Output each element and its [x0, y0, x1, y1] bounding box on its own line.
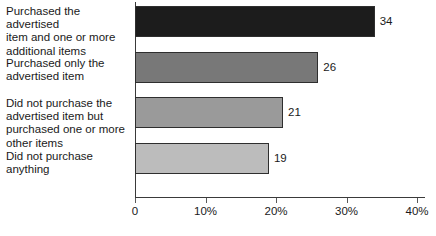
category-label-1-line-0: Purchased only the — [6, 57, 132, 70]
category-label-3-line-1: anything — [6, 163, 132, 176]
x-axis-tick-label-0: 0 — [132, 205, 138, 217]
category-label-1-line-1: advertised item — [6, 70, 132, 83]
category-label-3: Did not purchase anything — [6, 150, 132, 176]
bar-value-label-3: 19 — [274, 152, 287, 164]
bar-3 — [135, 143, 269, 174]
x-axis-tick-1 — [206, 198, 207, 203]
category-label-0-line-0: Purchased the advertised — [6, 5, 132, 31]
category-label-2-line-1: advertised item but — [6, 110, 132, 123]
category-label-2-line-3: other items — [6, 137, 132, 150]
category-label-0: Purchased the advertised item and one or… — [6, 5, 132, 58]
bar-value-label-1: 26 — [323, 61, 336, 73]
x-axis-tick-3 — [347, 198, 348, 203]
x-axis-tick-label-3: 30% — [335, 205, 358, 217]
category-label-1: Purchased only the advertised item — [6, 57, 132, 83]
category-label-2: Did not purchase the advertised item but… — [6, 97, 132, 150]
bar-0 — [135, 6, 375, 37]
bar-2 — [135, 97, 283, 128]
x-axis-tick-2 — [276, 198, 277, 203]
bar-chart: Purchased the advertised item and one or… — [0, 0, 436, 236]
category-label-0-line-2: additional items — [6, 45, 132, 58]
category-label-2-line-0: Did not purchase the — [6, 97, 132, 110]
x-axis-tick-4 — [417, 198, 418, 203]
x-axis-tick-label-4: 40% — [405, 205, 428, 217]
bar-value-label-0: 34 — [380, 15, 393, 27]
bar-value-label-2: 21 — [288, 106, 301, 118]
x-axis-line — [135, 197, 425, 198]
category-label-3-line-0: Did not purchase — [6, 150, 132, 163]
x-axis-tick-0 — [135, 198, 136, 203]
x-axis-tick-label-1: 10% — [194, 205, 217, 217]
category-label-0-line-1: item and one or more — [6, 31, 132, 44]
category-label-2-line-2: purchased one or more — [6, 123, 132, 136]
bar-1 — [135, 52, 318, 83]
x-axis-tick-label-2: 20% — [264, 205, 287, 217]
